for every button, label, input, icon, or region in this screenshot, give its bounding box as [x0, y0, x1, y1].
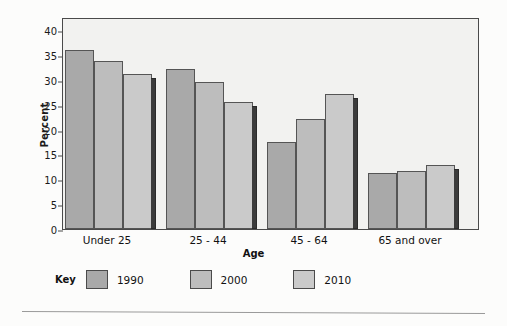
legend-item[interactable]: 2000	[190, 270, 248, 289]
bar-group	[267, 19, 354, 229]
bar[interactable]	[296, 119, 325, 229]
legend-label: 2000	[221, 274, 248, 286]
y-tick-label: 0	[31, 226, 57, 236]
bar[interactable]	[267, 142, 296, 229]
legend-label: 1990	[117, 274, 144, 286]
bar[interactable]	[224, 102, 253, 229]
bar[interactable]	[368, 173, 397, 229]
x-tick-label: 45 - 64	[290, 234, 327, 246]
bar[interactable]	[397, 171, 426, 229]
bar-group	[368, 19, 455, 229]
legend-swatch	[86, 270, 108, 289]
y-tick-label: 15	[31, 151, 57, 161]
bars-layer	[63, 19, 478, 229]
bar[interactable]	[94, 61, 123, 229]
legend-swatch	[293, 270, 315, 289]
y-tick-mark	[58, 231, 63, 232]
y-tick-label: 20	[31, 127, 57, 137]
bar[interactable]	[166, 69, 195, 229]
bar[interactable]	[65, 50, 94, 229]
bar-shadow	[151, 78, 156, 229]
chart-page: Percent 0510152025303540 Under 2525 - 44…	[0, 0, 507, 326]
bar-group	[166, 19, 253, 229]
bar[interactable]	[325, 94, 354, 229]
legend-item[interactable]: 2010	[293, 270, 351, 289]
legend-item[interactable]: 1990	[86, 270, 144, 289]
chart-legend: Key 199020002010	[55, 270, 397, 289]
y-tick-label: 10	[31, 176, 57, 186]
page-bottom-rule	[22, 311, 485, 314]
y-tick-label: 25	[31, 102, 57, 112]
legend-title: Key	[55, 274, 76, 285]
bar-shadow	[353, 98, 358, 229]
y-tick-label: 35	[31, 52, 57, 62]
bar[interactable]	[426, 165, 455, 229]
legend-items: 199020002010	[86, 270, 397, 289]
x-tick-label: 65 and over	[378, 234, 441, 246]
bar[interactable]	[195, 82, 224, 229]
x-tick-label: Under 25	[83, 234, 131, 246]
bar-group	[65, 19, 152, 229]
y-tick-label: 40	[31, 27, 57, 37]
bar[interactable]	[123, 74, 152, 229]
bar-shadow	[252, 106, 257, 229]
y-tick-label: 5	[31, 201, 57, 211]
legend-swatch	[190, 270, 212, 289]
plot-area: Percent 0510152025303540	[62, 18, 479, 230]
x-axis-title: Age	[0, 248, 507, 259]
legend-label: 2010	[324, 274, 351, 286]
y-tick-label: 30	[31, 77, 57, 87]
x-tick-label: 25 - 44	[189, 234, 226, 246]
bar-shadow	[454, 169, 459, 229]
